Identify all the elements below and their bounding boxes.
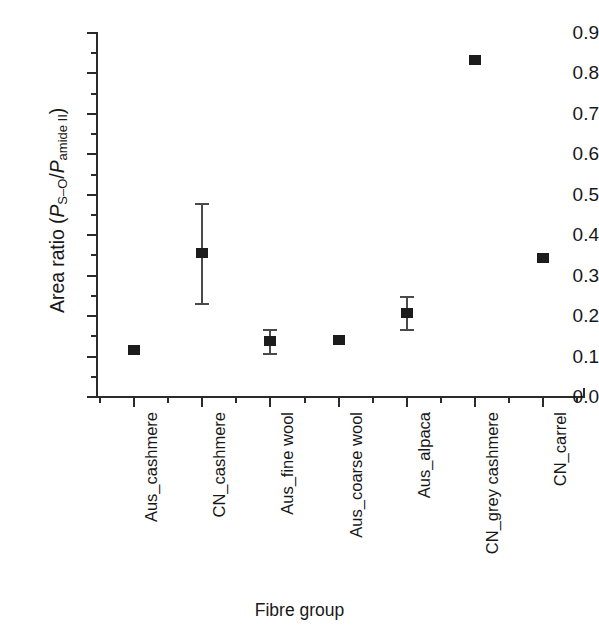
y-axis-title-p1: P [46, 205, 68, 218]
x-axis-tick-major [406, 398, 408, 407]
y-axis-tick-minor [91, 335, 96, 337]
x-axis-tick-minor [440, 398, 442, 403]
y-axis-line [96, 32, 98, 398]
chart-figure: Area ratio (PS–O/Pamide II) 0.00.10.20.3… [0, 0, 599, 638]
y-axis-tick-major [87, 356, 96, 358]
y-axis-title-prefix: Area ratio ( [46, 218, 68, 313]
y-axis-tick-minor [91, 133, 96, 135]
x-axis-tick-minor [235, 398, 237, 403]
x-axis-tick-major [542, 398, 544, 407]
y-axis-title-suffix: ) [46, 108, 68, 114]
data-point-marker [537, 253, 549, 263]
y-axis-title-sub1: S–O [55, 179, 70, 205]
x-axis-tick-minor [99, 398, 101, 403]
y-axis-tick-major [87, 32, 96, 34]
y-axis-tick-label: 0.9 [515, 23, 599, 42]
y-axis-tick-label: 0.3 [515, 266, 599, 285]
x-axis-tick-label: Aus_cashmere [142, 412, 161, 522]
y-axis-tick-minor [91, 174, 96, 176]
y-axis-tick-major [87, 275, 96, 277]
data-point-marker [333, 335, 345, 345]
y-axis-title-slash: / [46, 173, 68, 178]
x-axis-tick-label: Aus_coarse wool [347, 412, 366, 538]
x-axis-line [96, 396, 585, 398]
y-axis-tick-minor [91, 254, 96, 256]
data-point-marker [196, 248, 208, 258]
y-axis-title: Area ratio (PS–O/Pamide II) [46, 30, 71, 390]
y-axis-tick-major [87, 72, 96, 74]
x-axis-tick-minor [508, 398, 510, 403]
error-bar-cap-lower [400, 329, 414, 331]
x-axis-tick-label: CN_grey cashmere [483, 412, 502, 554]
y-axis-tick-major [87, 315, 96, 317]
y-axis-tick-major [87, 113, 96, 115]
x-axis-tick-minor [304, 398, 306, 403]
x-axis-title: Fibre group [0, 600, 599, 621]
y-axis-tick-minor [91, 93, 96, 95]
y-axis-tick-label: 0.7 [515, 104, 599, 123]
y-axis-tick-label: 0.2 [515, 306, 599, 325]
y-axis-tick-label: 0.8 [515, 63, 599, 82]
x-axis-tick-minor [372, 398, 374, 403]
error-bar-cap-lower [195, 303, 209, 305]
y-axis-tick-label: 0.6 [515, 144, 599, 163]
x-axis-tick-major [338, 398, 340, 407]
x-axis-tick-label: Aus_fine wool [278, 412, 297, 515]
data-point-marker [469, 55, 481, 65]
data-point-marker [401, 308, 413, 318]
y-axis-tick-label: 0.1 [515, 347, 599, 366]
x-axis-tick-minor [167, 398, 169, 403]
x-axis-tick-major [201, 398, 203, 407]
x-axis-tick-label: CN_carrel [551, 412, 570, 486]
error-bar-cap-upper [263, 329, 277, 331]
y-axis-title-sub2: amide II [55, 114, 70, 160]
y-axis-title-p2: P [46, 160, 68, 173]
data-point-marker [128, 345, 140, 355]
error-bar-cap-lower [263, 353, 277, 355]
data-point-marker [264, 336, 276, 346]
y-axis-tick-minor [91, 376, 96, 378]
y-axis-tick-minor [91, 52, 96, 54]
x-axis-tick-minor [576, 398, 578, 403]
y-axis-tick-major [87, 396, 96, 398]
y-axis-tick-major [87, 153, 96, 155]
x-axis-tick-label: CN_cashmere [210, 412, 229, 517]
y-axis-tick-label: 0.5 [515, 185, 599, 204]
y-axis-tick-minor [91, 214, 96, 216]
y-axis-tick-major [87, 234, 96, 236]
error-bar-cap-upper [400, 296, 414, 298]
y-axis-tick-label: 0.4 [515, 225, 599, 244]
y-axis-tick-minor [91, 295, 96, 297]
error-bar-cap-upper [195, 203, 209, 205]
y-axis-tick-label: 0.0 [515, 387, 599, 406]
x-axis-tick-label: Aus_alpaca [415, 412, 434, 498]
x-axis-tick-major [133, 398, 135, 407]
x-axis-tick-major [474, 398, 476, 407]
x-axis-tick-major [269, 398, 271, 407]
y-axis-tick-major [87, 194, 96, 196]
